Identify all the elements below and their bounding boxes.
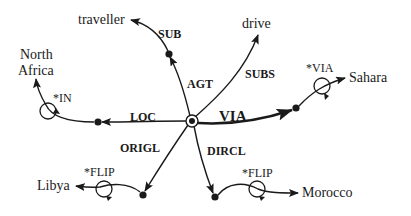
semantic-network-diagram: traveller drive North Africa Sahara Liby… <box>0 0 411 216</box>
node-label-drive: drive <box>242 16 271 31</box>
node-label-morocco: Morocco <box>302 185 353 200</box>
relation-label-dircl: DIRCL <box>207 144 246 158</box>
loop-via <box>314 78 330 94</box>
hub-inner-dot <box>189 118 195 124</box>
loop-flip-libya <box>96 181 112 197</box>
loop-flip-libya-arrow <box>106 196 112 201</box>
edge-origl <box>145 125 188 191</box>
edge-flip-libya <box>76 185 140 192</box>
node-label-north-africa-1: North <box>20 47 53 62</box>
node-via-intermediate <box>292 104 299 111</box>
loop-in-arrow <box>53 108 60 114</box>
loop-in <box>40 103 56 119</box>
loop-via-arrow <box>324 93 329 100</box>
diagram-canvas: traveller drive North Africa Sahara Liby… <box>0 0 411 216</box>
relation-label-subs: SUBS <box>245 67 275 81</box>
relation-label-loc: LOC <box>130 110 156 124</box>
relation-label-via: VIA <box>219 108 247 124</box>
relation-label-origl: ORIGL <box>120 141 160 155</box>
marker-label-flip-morocco: *FLIP <box>242 166 273 180</box>
node-agt-intermediate <box>165 50 172 57</box>
node-label-sahara: Sahara <box>349 70 388 85</box>
node-label-traveller: traveller <box>78 12 125 27</box>
node-label-north-africa-2: Africa <box>18 63 55 78</box>
edge-dircl <box>194 126 213 193</box>
relation-label-agt: AGT <box>187 77 213 91</box>
edge-flip-morocco <box>218 184 298 195</box>
marker-label-via: *VIA <box>306 61 334 75</box>
edge-via-marker <box>299 78 345 106</box>
relation-label-sub: SUB <box>158 27 181 41</box>
marker-label-in: *IN <box>53 91 72 105</box>
node-origl-intermediate <box>139 191 146 198</box>
node-label-libya: Libya <box>37 178 70 193</box>
loop-flip-morocco-arrow <box>259 196 265 201</box>
marker-label-flip-libya: *FLIP <box>84 165 115 179</box>
node-loc-intermediate <box>94 118 101 125</box>
